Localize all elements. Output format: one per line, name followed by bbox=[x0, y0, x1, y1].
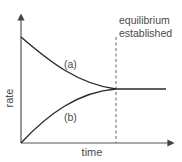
y-axis-label: rate bbox=[3, 89, 15, 108]
annotation-line-1: equilibrium bbox=[119, 14, 170, 26]
series-a-label: (a) bbox=[64, 58, 77, 70]
annotation-line-2: established bbox=[119, 27, 172, 39]
rate-time-chart: (a) (b) equilibrium established time rat… bbox=[0, 0, 182, 162]
series-b-label: (b) bbox=[64, 111, 77, 123]
x-axis-label: time bbox=[82, 146, 103, 158]
